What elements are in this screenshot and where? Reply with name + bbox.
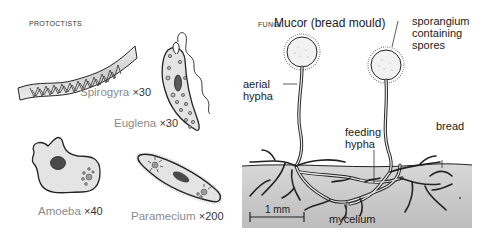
caption-paramecium: Paramecium ×200: [131, 210, 224, 222]
fungi-title: Mucor (bread mould): [274, 16, 385, 30]
section-label-protoctists: PROTOCTISTS: [29, 20, 82, 27]
label-feeding-line1: feeding: [345, 126, 381, 138]
label-bread: bread: [436, 120, 464, 132]
caption-euglena: Euglena ×30: [114, 117, 178, 129]
label-mycelium: mycelium: [329, 213, 375, 225]
caption-amoeba-mag: ×40: [84, 205, 103, 217]
label-sporangium: sporangium containing spores: [412, 15, 469, 51]
label-sporangium-line2: containing: [412, 27, 469, 39]
sporangium-right: [368, 47, 404, 83]
paramecium-illustration: [136, 153, 222, 204]
label-feeding-line2: hypha: [345, 138, 381, 150]
label-feeding-hypha: feeding hypha: [345, 126, 381, 150]
caption-paramecium-mag: ×200: [199, 210, 224, 222]
sporangium-left: [284, 34, 320, 70]
amoeba-illustration: [32, 138, 100, 193]
label-sporangium-line3: spores: [412, 39, 469, 51]
caption-amoeba-name: Amoeba: [38, 205, 81, 217]
label-aerial-hypha: aerial hypha: [243, 78, 273, 102]
label-sporangium-line1: sporangium: [412, 15, 469, 27]
caption-spirogyra-name: Spirogyra: [80, 86, 129, 98]
label-scale: 1 mm: [265, 204, 290, 216]
euglena-illustration: [162, 33, 210, 131]
caption-spirogyra: Spirogyra ×30: [80, 86, 151, 98]
caption-euglena-name: Euglena: [114, 117, 156, 129]
caption-amoeba: Amoeba ×40: [38, 205, 103, 217]
label-aerial-line2: hypha: [243, 90, 273, 102]
caption-paramecium-name: Paramecium: [131, 210, 196, 222]
caption-spirogyra-mag: ×30: [132, 86, 151, 98]
caption-euglena-mag: ×30: [159, 117, 178, 129]
label-aerial-line1: aerial: [243, 78, 273, 90]
